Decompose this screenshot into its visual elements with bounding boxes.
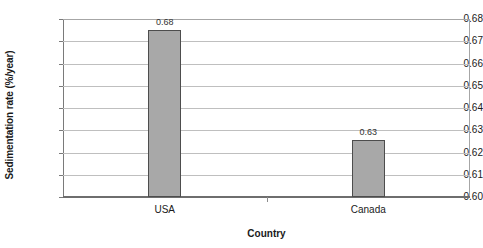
bar-value-label: 0.63 (343, 127, 393, 137)
gridline (63, 108, 470, 109)
category-divider-tick (267, 197, 268, 202)
gridline (63, 64, 470, 65)
gridline (63, 153, 470, 154)
bar-value-label: 0.68 (140, 17, 190, 27)
bar (148, 30, 181, 197)
x-axis-title: Country (63, 228, 470, 240)
gridline (63, 86, 470, 87)
y-axis-title: Sedimentation rate (%/year) (0, 10, 20, 220)
gridline (63, 41, 470, 42)
gridline (63, 130, 470, 131)
bar-chart: Sedimentation rate (%/year) 0.680.670.66… (0, 0, 483, 248)
bar (352, 140, 385, 197)
plot-area (63, 19, 470, 197)
x-axis-category-label: USA (120, 204, 210, 216)
gridline (63, 19, 470, 20)
gridline (63, 175, 470, 176)
x-axis-category-label: Canada (323, 204, 413, 216)
